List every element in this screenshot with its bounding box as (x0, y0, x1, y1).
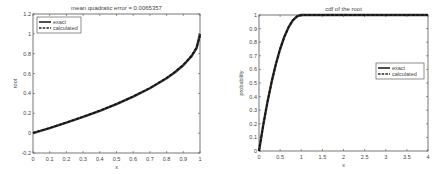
x-tick-label: 0.6 (129, 156, 137, 162)
chart-title: cdf of the root (325, 6, 362, 12)
x-tick-label: 0.1 (46, 156, 54, 162)
chart-title: mean quadratic error = 0.0065357 (71, 5, 163, 11)
x-tick-label: 0.8 (163, 156, 171, 162)
plot-area (33, 14, 200, 153)
y-tick-label: 1 (28, 31, 31, 37)
y-tick-label: 0.7 (249, 53, 257, 59)
chart-1: 00.10.20.30.40.50.60.70.80.91-0.200.20.4… (12, 5, 202, 170)
x-axis-label: x (342, 162, 345, 168)
y-tick-label: 0.3 (249, 107, 257, 113)
x-tick-label: 1 (198, 156, 201, 162)
x-tick-label: 0.5 (113, 156, 121, 162)
y-tick-label: 0.5 (249, 80, 257, 86)
y-tick-label: 0.4 (249, 94, 257, 100)
y-tick-label: 0.8 (249, 39, 257, 45)
x-tick-label: 2.5 (361, 154, 369, 160)
figure-svg: 00.10.20.30.40.50.60.70.80.91-0.200.20.4… (0, 0, 446, 174)
y-tick-label: 0 (254, 148, 257, 154)
figure: 00.10.20.30.40.50.60.70.80.91-0.200.20.4… (0, 0, 446, 174)
y-tick-label: 1 (254, 12, 257, 18)
x-tick-label: 4 (426, 154, 429, 160)
x-tick-label: 0.2 (63, 156, 71, 162)
x-tick-label: 0.5 (276, 154, 284, 160)
x-tick-label: 2 (342, 154, 345, 160)
legend: exactcalculated (37, 17, 81, 33)
legend-label-calculated: calculated (392, 71, 417, 77)
x-tick-label: 0.7 (146, 156, 154, 162)
x-tick-label: 0.4 (96, 156, 104, 162)
y-tick-label: 0.6 (249, 66, 257, 72)
legend: exactcalculated (376, 63, 424, 79)
y-tick-label: -0.2 (22, 150, 31, 156)
x-tick-label: 0.9 (179, 156, 187, 162)
x-tick-label: 0.3 (79, 156, 87, 162)
y-tick-label: 0.8 (23, 51, 31, 57)
x-tick-label: 1 (300, 154, 303, 160)
y-axis-label: root (12, 78, 18, 88)
y-tick-label: 0.4 (23, 90, 31, 96)
x-axis-label: x (115, 164, 118, 170)
y-tick-label: 0.1 (249, 134, 257, 140)
y-tick-label: 0 (28, 130, 31, 136)
y-tick-label: 0.6 (23, 71, 31, 77)
x-tick-label: 0 (257, 154, 260, 160)
x-tick-label: 3 (384, 154, 387, 160)
y-tick-label: 0.9 (249, 26, 257, 32)
y-tick-label: 0.2 (249, 121, 257, 127)
y-axis-label: probability (238, 70, 244, 95)
x-tick-label: 1.5 (319, 154, 327, 160)
y-tick-label: 0.2 (23, 110, 31, 116)
legend-label-calculated: calculated (53, 25, 78, 31)
y-tick-label: 1.2 (23, 11, 31, 17)
x-tick-label: 3.5 (403, 154, 411, 160)
chart-2: 00.511.522.533.5400.10.20.30.40.50.60.70… (238, 6, 430, 168)
x-tick-label: 0 (31, 156, 34, 162)
